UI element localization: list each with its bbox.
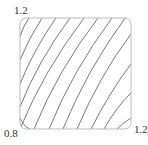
contour-plot bbox=[0, 0, 148, 145]
contour-lines bbox=[20, 18, 131, 129]
